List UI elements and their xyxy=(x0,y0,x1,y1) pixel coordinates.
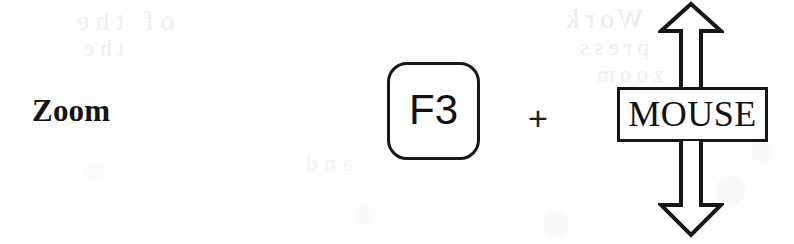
bleed-through-line: and xyxy=(300,150,353,177)
bleed-through-line: Work xyxy=(560,4,643,35)
bleed-through-line: press xyxy=(575,34,649,61)
bleed-through-line: of the xyxy=(70,6,174,37)
key-cap-label: F3 xyxy=(409,89,458,133)
arrow-up-outline-icon xyxy=(658,1,724,91)
bleed-through-line: the xyxy=(78,36,124,62)
mouse-box: MOUSE xyxy=(617,87,768,142)
arrow-down-outline-icon xyxy=(658,139,724,238)
plus-icon: + xyxy=(521,100,555,136)
action-label: Zoom xyxy=(32,94,110,128)
key-cap-f3: F3 xyxy=(387,62,480,160)
mouse-box-label: MOUSE xyxy=(628,95,757,135)
scanned-figure: of the the Work press to zoom and Zoom F… xyxy=(0,0,794,244)
